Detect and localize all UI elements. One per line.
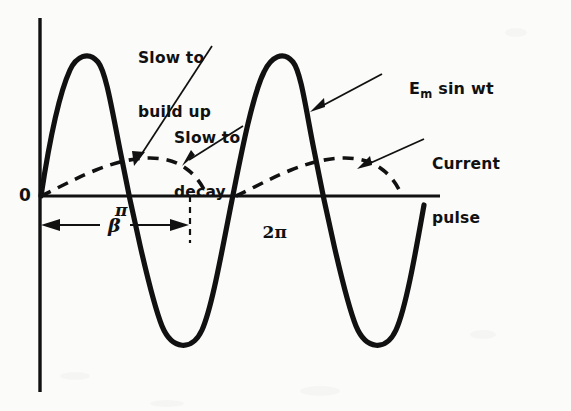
dimension-label-beta: β	[108, 214, 121, 236]
annotation-current-pulse-line2: pulse	[432, 209, 500, 227]
axis-label-two-pi-text: 2π	[262, 222, 287, 242]
annotation-sine-equation: Em sin wt	[386, 61, 494, 121]
sine-equation-subscript: m	[420, 87, 432, 101]
annotation-slow-decay: Slow to decay	[174, 92, 240, 238]
annotation-slow-decay-line1: Slow to	[174, 129, 240, 147]
annotation-slow-build-up-line1: Slow to	[138, 49, 211, 67]
sine-equation-base: E	[409, 79, 420, 98]
axis-label-origin: 0	[19, 185, 31, 205]
leader-sine-label	[310, 74, 382, 112]
leader-current-pulse-label	[357, 139, 424, 169]
annotation-slow-decay-line2: decay	[174, 183, 240, 201]
axis-label-two-pi: 2π	[238, 202, 287, 262]
annotation-current-pulse: Current pulse	[432, 118, 500, 264]
sine-equation-rest: sin wt	[432, 79, 493, 98]
annotation-current-pulse-line1: Current	[432, 155, 500, 173]
waveform-figure: Slow to build up Slow to decay Em sin wt…	[0, 0, 571, 411]
